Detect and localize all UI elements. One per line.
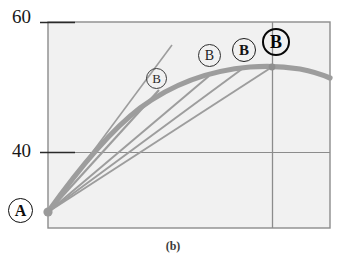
figure-caption: (b) (0, 239, 346, 254)
point-b-final-dot (269, 64, 276, 71)
point-label-b-4: B (262, 28, 290, 56)
y-axis-tick-label-60: 60 (12, 7, 31, 26)
point-label-a: A (8, 198, 33, 223)
figure-panel: 60 40 A B B B B (b) (0, 0, 346, 263)
plot-canvas (0, 0, 346, 263)
point-label-b-2: B (198, 44, 221, 67)
y-axis-tick-label-40: 40 (12, 141, 31, 160)
point-a-dot (43, 207, 52, 216)
point-label-b-3: B (232, 38, 256, 62)
point-label-b-1: B (146, 68, 167, 89)
plot-background (48, 22, 330, 228)
